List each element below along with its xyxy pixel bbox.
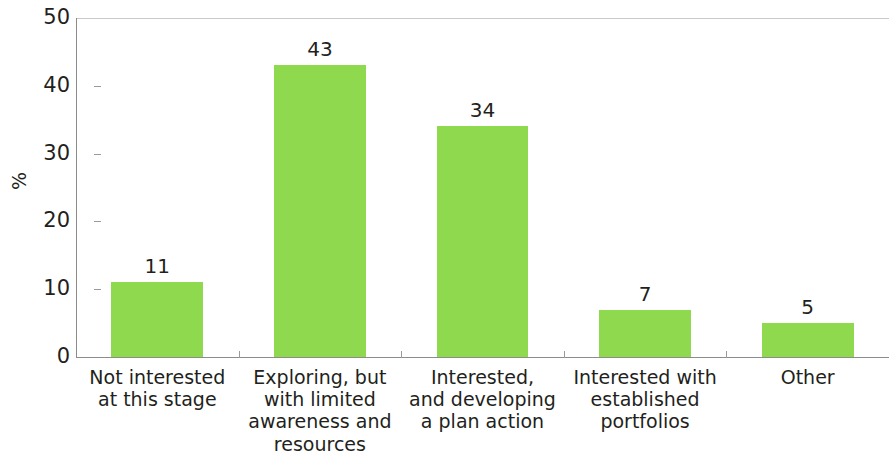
x-axis-category-label: Other [718,366,889,388]
y-axis-line [76,18,77,358]
bar-value-label: 11 [76,256,239,276]
bar [437,126,529,357]
bar [111,282,203,357]
bar-value-label: 34 [401,100,564,120]
x-axis-tick-mark [564,351,565,358]
bar-value-label: 7 [564,284,727,304]
y-axis-tick-label: 10 [26,278,70,299]
x-axis-category-label: Interested with established portfolios [556,366,735,433]
y-axis-tick-label: 50 [26,7,70,28]
y-axis-ticks: 01020304050 [18,0,70,446]
y-axis-tick-label: 20 [26,210,70,231]
bar-value-label: 43 [239,39,402,59]
y-axis-tick-mark [94,154,101,155]
bar [274,65,366,357]
x-axis-tick-mark [401,351,402,358]
x-axis-category-label: Exploring, but with limited awareness an… [231,366,410,455]
y-axis-tick-mark [94,221,101,222]
x-axis-category-label: Not interested at this stage [68,366,247,410]
y-axis-tick-label: 30 [26,143,70,164]
x-axis-tick-mark [726,351,727,358]
bar [762,323,854,357]
x-axis-category-label: Interested, and developing a plan action [393,366,572,433]
y-axis-tick-label: 0 [26,346,70,367]
x-axis-tick-mark [239,351,240,358]
x-axis-line [76,357,889,358]
bar-value-label: 5 [726,297,889,317]
y-axis-tick-mark [94,289,101,290]
plot-top-border [76,18,889,19]
y-axis-tick-mark [94,86,101,87]
bar [599,310,691,357]
y-axis-tick-label: 40 [26,75,70,96]
